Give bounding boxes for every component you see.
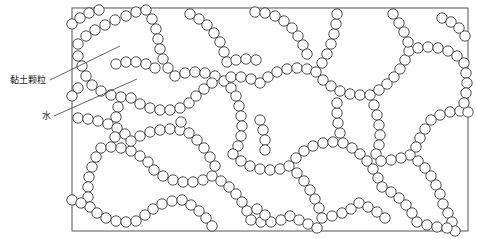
clay-particle: [332, 108, 342, 118]
clay-particle: [73, 113, 83, 123]
clay-particle: [121, 217, 131, 227]
clay-particle: [167, 196, 177, 206]
clay-particle: [461, 68, 471, 78]
clay-particle: [255, 164, 265, 174]
clay-particle: [73, 51, 83, 61]
clay-particle: [345, 89, 355, 99]
clay-particle: [110, 132, 120, 142]
clay-particle: [207, 221, 217, 231]
clay-particle: [100, 20, 110, 30]
clay-particle: [87, 80, 97, 90]
clay-particle: [386, 155, 396, 165]
clay-particle: [76, 198, 86, 208]
clay-particle: [93, 116, 103, 126]
clay-particle: [131, 7, 141, 17]
clay-particle: [121, 11, 131, 21]
clay-particle: [83, 182, 93, 192]
clay-particle: [155, 125, 165, 135]
clay-particle: [399, 27, 409, 37]
clay-particle: [282, 64, 292, 74]
clay-particle: [335, 128, 345, 138]
clay-particle: [333, 118, 343, 128]
clay-particle: [151, 24, 161, 34]
clay-particle: [113, 102, 123, 112]
clay-particle: [442, 223, 452, 233]
clay-particle: [332, 98, 342, 108]
clay-particle: [246, 215, 256, 225]
clay-particle: [445, 107, 455, 117]
clay-particle: [412, 217, 422, 227]
clay-particle: [314, 203, 324, 213]
clay-particle: [131, 57, 141, 67]
clay-particle: [178, 177, 188, 187]
clay-particle: [372, 110, 382, 120]
clay-particle: [236, 111, 246, 121]
clay-particle: [126, 93, 136, 103]
clay-particle: [83, 114, 93, 124]
clay-particle: [423, 42, 433, 52]
clay-particle: [302, 49, 312, 59]
clay-particle: [147, 14, 157, 24]
clay-particle: [155, 105, 165, 115]
figure-canvas: 黏土颗粒 水: [0, 0, 477, 239]
clay-particle: [260, 145, 270, 155]
clay-particle: [375, 130, 385, 140]
clay-particle: [91, 152, 101, 162]
clay-particle: [111, 112, 121, 122]
clay-particle: [219, 47, 229, 57]
clay-particle: [326, 39, 336, 49]
clay-particle: [111, 59, 121, 69]
clay-particle: [149, 165, 159, 175]
clay-particle: [250, 7, 260, 17]
clay-particle: [188, 177, 198, 187]
clay-particle: [380, 213, 390, 223]
clay-particle: [260, 135, 270, 145]
clay-particle: [236, 131, 246, 141]
clay-particle: [215, 37, 225, 47]
clay-particle: [200, 68, 210, 78]
clay-particle: [81, 71, 91, 81]
clay-particle: [145, 103, 155, 113]
clay-particle: [272, 67, 282, 77]
clay-particle: [245, 161, 255, 171]
clay-particle: [153, 34, 163, 44]
clay-particle: [90, 25, 100, 35]
clay-particle: [145, 127, 155, 137]
clay-particle: [396, 153, 406, 163]
clay-particle: [322, 49, 332, 59]
clay-particle: [329, 29, 339, 39]
clay-particle: [459, 98, 469, 108]
clay-particle: [435, 189, 445, 199]
clay-particle: [101, 213, 111, 223]
clay-particle: [165, 124, 175, 134]
clay-particle: [411, 142, 421, 152]
clay-particle: [374, 120, 384, 130]
clay-particle: [332, 9, 342, 19]
clay-particle: [210, 161, 220, 171]
clay-particle: [369, 100, 379, 110]
clay-particle: [180, 68, 190, 78]
clay-particle: [150, 63, 160, 73]
clay-particle: [87, 162, 97, 172]
clay-particle: [308, 141, 318, 151]
clay-particle: [461, 88, 471, 98]
clay-particle: [168, 175, 178, 185]
clay-particle: [135, 99, 145, 109]
clay-particle: [462, 78, 472, 88]
clay-particle: [190, 67, 200, 77]
clay-particle: [176, 117, 186, 127]
clay-particle: [165, 105, 175, 115]
clay-particle: [328, 137, 338, 147]
clay-particle: [111, 216, 121, 226]
clay-particle: [237, 121, 247, 131]
clay-particle: [299, 176, 309, 186]
clay-particle: [141, 5, 151, 15]
clay-particle: [258, 125, 268, 135]
clay-particle: [94, 5, 104, 15]
clay-particle: [116, 92, 126, 102]
clay-particle: [157, 199, 167, 209]
clay-particle: [433, 43, 443, 53]
clay-particle: [234, 101, 244, 111]
clay-particle: [388, 9, 398, 19]
clay-particle: [432, 222, 442, 232]
